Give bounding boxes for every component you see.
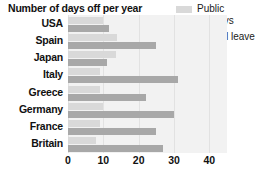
category-label-france: France [30,120,63,132]
x-tick-label-20: 20 [133,154,145,166]
bar-spain-public-holidays [68,34,117,41]
bar-italy-annual-leave [68,76,178,83]
bar-britain-public-holidays [68,137,96,144]
bar-usa-annual-leave [68,25,109,32]
category-label-spain: Spain [35,34,63,46]
x-tick-label-10: 10 [97,154,109,166]
category-label-greece: Greece [29,86,63,98]
bar-japan-annual-leave [68,59,107,66]
legend-swatch-public-holidays [176,6,192,13]
bar-spain-annual-leave [68,42,156,49]
bar-france-annual-leave [68,128,156,135]
category-label-germany: Germany [19,103,63,115]
bar-greece-annual-leave [68,94,146,101]
bar-chart-figure: Number of days off per year Public holid… [0,0,259,169]
value-axis: 010203040 [68,153,227,169]
bar-greece-public-holidays [68,86,100,93]
bar-usa-public-holidays [68,17,103,24]
x-tick-label-0: 0 [65,154,71,166]
bar-germany-public-holidays [68,103,103,110]
bars-layer [68,15,227,153]
bar-britain-annual-leave [68,145,163,152]
category-label-italy: Italy [43,68,63,80]
bar-germany-annual-leave [68,111,174,118]
category-axis: USASpainJapanItalyGreeceGermanyFranceBri… [0,15,66,153]
category-label-britain: Britain [31,137,63,149]
chart-title: Number of days off per year [8,2,142,14]
category-label-japan: Japan [34,51,63,63]
category-label-usa: USA [41,17,63,29]
x-tick-label-30: 30 [168,154,180,166]
x-tick-label-40: 40 [203,154,215,166]
bar-france-public-holidays [68,120,100,127]
bar-japan-public-holidays [68,51,116,58]
bar-italy-public-holidays [68,68,100,75]
